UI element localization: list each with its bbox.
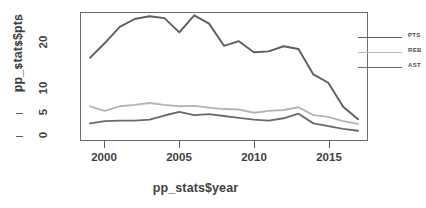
y-tick-5 [16, 113, 23, 114]
legend-entry-pts: PTS [358, 32, 426, 43]
x-tick-label-2005: 2005 [157, 151, 201, 163]
y-tick-label-10: 10 [37, 73, 49, 103]
legend-label-ast: AST [408, 62, 421, 68]
series-line-ast [90, 112, 358, 131]
x-tick-2005 [179, 141, 180, 148]
x-tick-2015 [329, 141, 330, 148]
x-tick-label-2010: 2010 [232, 151, 276, 163]
series-canvas [81, 13, 367, 140]
chart-legend: PTS REB AST [358, 32, 426, 77]
legend-entry-ast: AST [358, 62, 426, 73]
legend-label-pts: PTS [408, 32, 421, 38]
legend-swatch-ast [358, 67, 402, 68]
y-axis-title: pp_stats$pts [11, 0, 25, 113]
x-tick-label-2000: 2000 [82, 151, 126, 163]
legend-entry-reb: REB [358, 47, 426, 58]
y-tick-label-20: 20 [37, 27, 49, 57]
y-tick-0 [16, 136, 23, 137]
x-tick-2010 [254, 141, 255, 148]
x-axis-title: pp_stats$year [0, 181, 391, 195]
x-tick-label-2015: 2015 [307, 151, 351, 163]
legend-swatch-pts [358, 37, 402, 38]
plot-area: PTS REB AST [80, 12, 368, 141]
x-tick-2000 [104, 141, 105, 148]
legend-swatch-reb [358, 52, 402, 53]
series-line-pts [90, 15, 358, 119]
legend-label-reb: REB [408, 47, 422, 53]
